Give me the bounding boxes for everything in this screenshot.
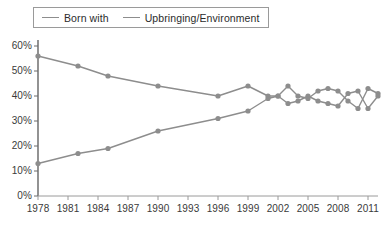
y-axis-tick-label: 30% bbox=[2, 115, 32, 126]
data-point bbox=[265, 96, 270, 101]
x-axis-tick-label: 2011 bbox=[348, 203, 385, 214]
data-point bbox=[295, 93, 300, 98]
data-point bbox=[335, 103, 340, 108]
data-point bbox=[285, 101, 290, 106]
data-point bbox=[35, 53, 40, 58]
data-point bbox=[315, 98, 320, 103]
data-point bbox=[155, 83, 160, 88]
data-point bbox=[75, 63, 80, 68]
data-point bbox=[315, 88, 320, 93]
data-point bbox=[345, 98, 350, 103]
data-point bbox=[355, 106, 360, 111]
y-axis-tick-label: 50% bbox=[2, 65, 32, 76]
data-point bbox=[105, 146, 110, 151]
y-axis-tick-label: 20% bbox=[2, 140, 32, 151]
data-point bbox=[295, 98, 300, 103]
data-point bbox=[335, 88, 340, 93]
y-axis-tick-label: 60% bbox=[2, 40, 32, 51]
data-point bbox=[215, 93, 220, 98]
data-point bbox=[245, 83, 250, 88]
data-point bbox=[375, 93, 380, 98]
data-point bbox=[75, 151, 80, 156]
data-point bbox=[105, 73, 110, 78]
data-point bbox=[215, 116, 220, 121]
data-point bbox=[155, 128, 160, 133]
data-point bbox=[35, 161, 40, 166]
data-point bbox=[285, 83, 290, 88]
data-point bbox=[275, 93, 280, 98]
data-point bbox=[355, 88, 360, 93]
plot-area bbox=[0, 0, 385, 235]
data-point bbox=[345, 91, 350, 96]
data-point bbox=[325, 86, 330, 91]
data-point bbox=[245, 108, 250, 113]
line-chart: Born with Upbringing/Environment 60%50%4… bbox=[0, 0, 385, 235]
y-axis-tick-label: 10% bbox=[2, 165, 32, 176]
data-point bbox=[365, 106, 370, 111]
series-line bbox=[38, 56, 378, 109]
data-point bbox=[305, 93, 310, 98]
data-point bbox=[325, 101, 330, 106]
y-axis-tick-label: 0% bbox=[2, 190, 32, 201]
series-upbringing-environment bbox=[35, 88, 380, 166]
y-axis-tick-label: 40% bbox=[2, 90, 32, 101]
data-point bbox=[365, 86, 370, 91]
plot-svg bbox=[0, 0, 385, 235]
